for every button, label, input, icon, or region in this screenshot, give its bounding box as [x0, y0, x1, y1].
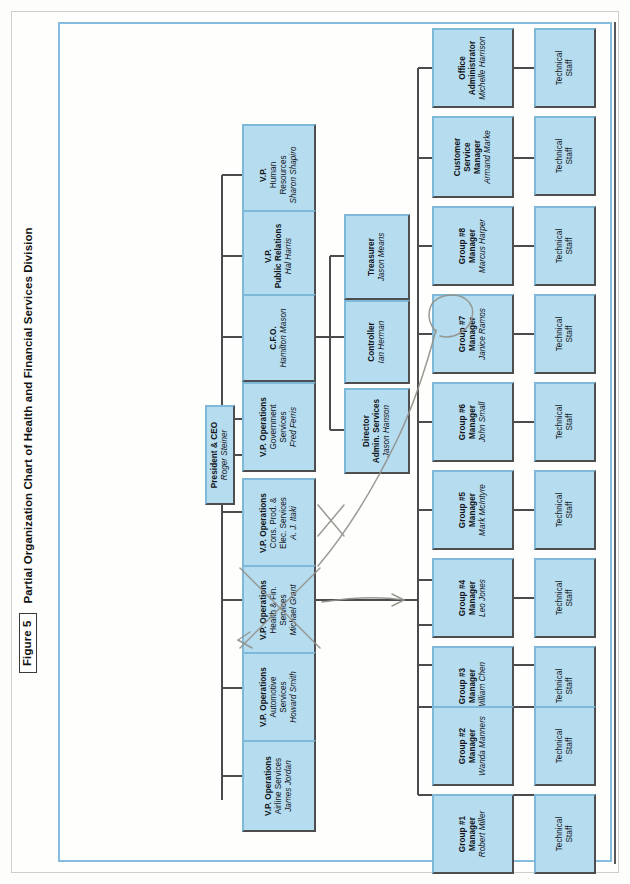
node-technical-staff-text: TechnicalStaff [555, 493, 575, 528]
node-vp-automotive-services[interactable]: V.P. Operations Automotive Services Howa… [242, 652, 316, 742]
node-title: V.P. Operations [259, 667, 269, 727]
node-cfo[interactable]: C.F.O. Hamilton Mason [242, 294, 316, 382]
node-title: Group #4 [458, 579, 468, 617]
node-technical-staff-text: TechnicalStaff [555, 51, 575, 86]
staff-label-line2: Staff [565, 139, 575, 174]
node-vp-consumer-electronics-text: V.P. Operations Cons. Prod. & Elec. Serv… [259, 493, 299, 553]
node-title: V.P. Operations [259, 397, 269, 457]
node-group-8-manager[interactable]: Group #8 Manager Marcus Harper [432, 206, 514, 286]
node-group-5-manager-text: Group #5 Manager Mark McIntyre [458, 484, 488, 536]
node-president-ceo[interactable]: President & CEO Roger Steiner [205, 405, 235, 505]
staff-label-line2: Staff [565, 581, 575, 616]
node-vp-health-financial[interactable]: V.P. Operations Health & Fin. Services M… [242, 565, 316, 655]
node-technical-staff-5[interactable]: TechnicalStaff [534, 382, 596, 462]
node-subtitle-1: Automotive [269, 667, 279, 727]
node-technical-staff-1[interactable]: TechnicalStaff [534, 28, 596, 108]
node-person: Jason Means [377, 233, 387, 282]
node-technical-staff-text: TechnicalStaff [555, 581, 575, 616]
node-subtitle: Manager [468, 308, 478, 360]
node-controller[interactable]: Controller Ian Herman [344, 300, 410, 384]
staff-label-line2: Staff [565, 405, 575, 440]
node-person: Ian Herman [377, 321, 387, 364]
node-treasurer[interactable]: Treasurer Jason Means [344, 214, 410, 300]
node-subtitle: Manager [468, 484, 478, 536]
node-title: Group #8 [458, 219, 468, 273]
node-person: Wanda Manners [478, 716, 488, 776]
figure-number-label: Figure 5 [19, 613, 38, 673]
staff-label-line2: Staff [565, 669, 575, 704]
node-title: Group #7 [458, 308, 468, 360]
node-person: Leo Jones [478, 579, 488, 617]
node-title: President & CEO [210, 422, 220, 488]
node-technical-staff-7[interactable]: TechnicalStaff [534, 558, 596, 638]
node-vp-health-financial-text: V.P. Operations Health & Fin. Services M… [259, 580, 299, 640]
node-title: Group #5 [458, 484, 468, 536]
node-group-6-manager[interactable]: Group #6 Manager John Small [432, 382, 514, 462]
node-technical-staff-9[interactable]: TechnicalStaff [534, 706, 596, 786]
node-technical-staff-6[interactable]: TechnicalStaff [534, 470, 596, 550]
node-technical-staff-10[interactable]: TechnicalStaff [534, 794, 596, 874]
node-person: Fred Ferris [289, 397, 299, 457]
node-title: Controller [367, 321, 377, 364]
node-subtitle-2: Services [279, 667, 289, 727]
node-customer-service-manager[interactable]: Customer Service Manager Armand Marke [432, 116, 514, 198]
node-president-ceo-text: President & CEO Roger Steiner [210, 422, 230, 488]
chart-frame [58, 22, 612, 862]
node-technical-staff-2[interactable]: TechnicalStaff [534, 116, 596, 196]
node-person: Howard Smith [289, 667, 299, 727]
staff-label-line2: Staff [565, 817, 575, 852]
node-vp-airline-services[interactable]: V.P. Operations Airline Services James J… [242, 740, 316, 832]
node-group-5-manager[interactable]: Group #5 Manager Mark McIntyre [432, 470, 514, 550]
node-customer-service-manager-text: Customer Service Manager Armand Marke [453, 130, 493, 184]
node-title: V.P. Operations [264, 756, 274, 816]
node-vp-human-resources-text: V.P. Human Resources Sharon Shapiro [259, 147, 299, 204]
staff-label-line2: Staff [565, 493, 575, 528]
node-group-1-manager[interactable]: Group #1 Manager Robert Miller [432, 794, 514, 874]
figure-title: Partial Organization Chart of Health and… [22, 227, 34, 603]
node-controller-text: Controller Ian Herman [367, 321, 387, 364]
node-technical-staff-text: TechnicalStaff [555, 729, 575, 764]
node-group-4-manager-text: Group #4 Manager Leo Jones [458, 579, 488, 617]
node-vp-government-services[interactable]: V.P. Operations Government Services Fred… [242, 382, 316, 472]
node-technical-staff-4[interactable]: TechnicalStaff [534, 294, 596, 374]
node-subtitle: Manager [468, 579, 478, 617]
node-title: C.F.O. [269, 308, 279, 367]
node-title: Office [458, 36, 468, 99]
node-title: Treasurer [367, 233, 377, 282]
node-person: John Small [478, 402, 488, 443]
node-title: Group #6 [458, 402, 468, 443]
node-person: Armand Marke [483, 130, 493, 184]
node-person: Sharon Shapiro [289, 147, 299, 204]
node-title: V.P. [259, 147, 269, 204]
figure-page: Figure 5 Partial Organization Chart of H… [0, 0, 630, 884]
node-vp-government-services-text: V.P. Operations Government Services Fred… [259, 397, 299, 457]
node-title: V.P. [264, 224, 274, 289]
node-subtitle-1: Government [269, 397, 279, 457]
staff-label-line1: Technical [555, 51, 565, 86]
node-subtitle: Airline Services [274, 756, 284, 816]
node-director-admin-services[interactable]: Director Admin. Services Jason Hanson [344, 388, 410, 474]
node-technical-staff-3[interactable]: TechnicalStaff [534, 206, 596, 286]
node-group-2-manager[interactable]: Group #2 Manager Wanda Manners [432, 706, 514, 786]
node-office-administrator[interactable]: Office Administrator Michelle Harrison [432, 28, 514, 108]
node-subtitle-2: Elec. Services [279, 493, 289, 553]
node-person: Hamilton Mason [279, 308, 289, 367]
node-person: Michelle Harrison [478, 36, 488, 99]
node-group-6-manager-text: Group #6 Manager John Small [458, 402, 488, 443]
node-title: V.P. Operations [259, 493, 269, 553]
node-subtitle-1: Human [269, 147, 279, 204]
node-group-4-manager[interactable]: Group #4 Manager Leo Jones [432, 558, 514, 638]
node-subtitle-1: Cons. Prod. & [269, 493, 279, 553]
node-subtitle-2: Services [279, 580, 289, 640]
node-group-3-manager-text: Group #3 Manager William Chen [458, 662, 488, 710]
node-technical-staff-text: TechnicalStaff [555, 405, 575, 440]
node-vp-consumer-electronics[interactable]: V.P. Operations Cons. Prod. & Elec. Serv… [242, 478, 316, 568]
staff-label-line1: Technical [555, 493, 565, 528]
staff-label-line1: Technical [555, 581, 565, 616]
node-vp-public-relations[interactable]: V.P. Public Relations Hal Harris [242, 210, 316, 302]
node-person: Robert Miller [478, 811, 488, 857]
staff-label-line1: Technical [555, 139, 565, 174]
node-vp-airline-services-text: V.P. Operations Airline Services James J… [264, 756, 294, 816]
node-person: William Chen [478, 662, 488, 710]
node-group-7-manager[interactable]: Group #7 Manager Janice Ramos [432, 294, 514, 374]
